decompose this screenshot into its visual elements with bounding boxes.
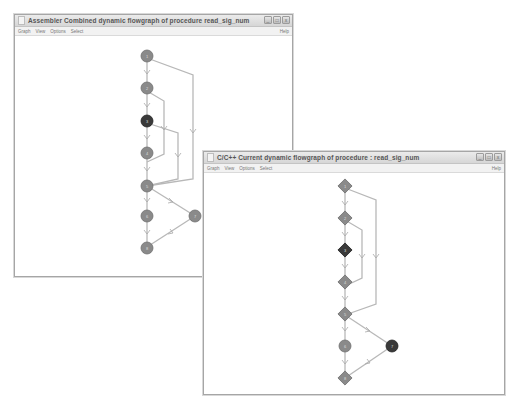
menu-graph[interactable]: Graph bbox=[18, 29, 31, 34]
menu-view[interactable]: View bbox=[225, 166, 235, 171]
menu-help[interactable]: Help bbox=[280, 29, 289, 34]
graph-nodes: 1 2 3 4 5 6 7 8 bbox=[141, 50, 201, 254]
app-icon bbox=[18, 16, 25, 25]
title-bar[interactable]: Assembler Combined dynamic flowgraph of … bbox=[15, 15, 292, 27]
c-flowgraph-window[interactable]: C/C++ Current dynamic flowgraph of proce… bbox=[203, 151, 505, 395]
window-title: C/C++ Current dynamic flowgraph of proce… bbox=[217, 154, 419, 161]
node-3[interactable]: 3 bbox=[141, 115, 153, 127]
menu-select[interactable]: Select bbox=[260, 166, 273, 171]
app-icon bbox=[207, 153, 214, 162]
menu-help[interactable]: Help bbox=[492, 166, 501, 171]
node-6[interactable]: 6 bbox=[339, 340, 351, 352]
node-4[interactable]: 4 bbox=[338, 275, 352, 289]
title-bar[interactable]: C/C++ Current dynamic flowgraph of proce… bbox=[204, 152, 504, 164]
node-8[interactable]: 8 bbox=[338, 371, 352, 385]
node-4[interactable]: 4 bbox=[141, 147, 153, 159]
minimize-button[interactable]: _ bbox=[476, 153, 484, 161]
maximize-button[interactable]: □ bbox=[273, 16, 281, 24]
node-7[interactable]: 7 bbox=[189, 210, 201, 222]
node-6[interactable]: 6 bbox=[141, 210, 153, 222]
node-2[interactable]: 2 bbox=[141, 82, 153, 94]
close-button[interactable]: x bbox=[282, 16, 290, 24]
graph-nodes: 1 2 3 4 5 6 7 8 bbox=[338, 179, 398, 385]
close-button[interactable]: x bbox=[494, 153, 502, 161]
node-1[interactable]: 1 bbox=[141, 50, 153, 62]
node-1[interactable]: 1 bbox=[338, 179, 352, 193]
menu-select[interactable]: Select bbox=[71, 29, 84, 34]
maximize-button[interactable]: □ bbox=[485, 153, 493, 161]
node-8[interactable]: 8 bbox=[141, 242, 153, 254]
node-5[interactable]: 5 bbox=[141, 180, 153, 192]
menu-graph[interactable]: Graph bbox=[207, 166, 220, 171]
menu-view[interactable]: View bbox=[36, 29, 46, 34]
menu-options[interactable]: Options bbox=[50, 29, 66, 34]
menu-options[interactable]: Options bbox=[239, 166, 255, 171]
node-3[interactable]: 3 bbox=[338, 243, 352, 257]
node-7[interactable]: 7 bbox=[386, 340, 398, 352]
flowgraph-canvas[interactable]: 1 2 3 4 5 6 7 8 bbox=[204, 172, 504, 394]
window-title: Assembler Combined dynamic flowgraph of … bbox=[28, 17, 249, 24]
minimize-button[interactable]: _ bbox=[264, 16, 272, 24]
